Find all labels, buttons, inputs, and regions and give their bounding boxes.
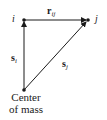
caption-line-2: of mass: [4, 103, 48, 115]
point-j-dot: [86, 18, 90, 22]
vector-r-ij-label: rij: [47, 6, 55, 18]
caption-line-1: Center: [4, 91, 48, 103]
vector-s-i-subscript: i: [15, 57, 17, 65]
point-j-label: j: [95, 14, 98, 24]
vector-s-j-arrow: [24, 22, 86, 90]
vector-r-subscript: ij: [51, 10, 55, 18]
vector-s-i-label: si: [11, 53, 17, 65]
center-of-mass-caption: Center of mass: [4, 91, 48, 115]
vector-s-j-label: sj: [62, 59, 68, 71]
point-i-dot: [22, 18, 26, 22]
point-i-label: i: [12, 14, 15, 24]
vector-s-j-subscript: j: [66, 63, 68, 71]
